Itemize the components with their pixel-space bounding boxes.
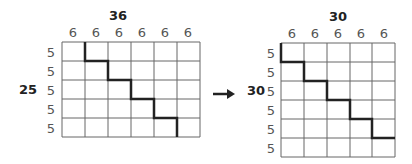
right-col-label: 6: [380, 26, 388, 41]
right-arrow-icon: [213, 89, 235, 99]
left-column-total: 36: [109, 8, 127, 23]
left-grid: 36 6 6 6 6 6 6 25 5 5 5 5 5: [19, 8, 200, 137]
right-column-total: 30: [329, 9, 347, 24]
left-col-label: 6: [69, 25, 77, 40]
right-row-labels: 5 5 5 5 5 5: [267, 46, 275, 156]
right-row-total: 30: [247, 83, 265, 98]
right-row-label: 5: [267, 46, 275, 61]
right-row-label: 5: [267, 65, 275, 80]
left-row-total: 25: [19, 82, 37, 97]
right-column-labels: 6 6 6 6 6: [288, 26, 388, 41]
left-row-label: 5: [47, 121, 55, 136]
right-col-label: 6: [357, 26, 365, 41]
right-row-label: 5: [267, 84, 275, 99]
right-row-label: 5: [267, 141, 275, 156]
left-col-label: 6: [92, 25, 100, 40]
right-row-label: 5: [267, 122, 275, 137]
right-col-label: 6: [288, 26, 296, 41]
left-row-label: 5: [47, 83, 55, 98]
left-row-label: 5: [47, 45, 55, 60]
right-col-label: 6: [334, 26, 342, 41]
right-col-label: 6: [311, 26, 319, 41]
left-column-labels: 6 6 6 6 6 6: [69, 25, 192, 40]
left-row-label: 5: [47, 64, 55, 79]
right-row-label: 5: [267, 103, 275, 118]
left-col-label: 6: [138, 25, 146, 40]
diagram-canvas: 36 6 6 6 6 6 6 25 5 5 5 5 5: [0, 0, 412, 164]
right-staircase-path: [281, 43, 395, 138]
left-col-label: 6: [161, 25, 169, 40]
left-col-label: 6: [115, 25, 123, 40]
left-col-label: 6: [184, 25, 192, 40]
left-row-label: 5: [47, 102, 55, 117]
left-row-labels: 5 5 5 5 5: [47, 45, 55, 136]
right-grid: 30 6 6 6 6 6 30 5 5 5 5 5 5: [247, 9, 395, 157]
